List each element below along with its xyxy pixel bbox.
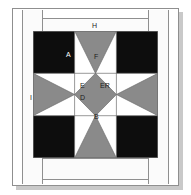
border-band-bottom	[43, 158, 148, 180]
border-label-i: I	[30, 94, 32, 101]
quilt-block: A F E ER D B	[33, 31, 158, 158]
patch-corner-bottom-left	[33, 116, 75, 158]
border-label-h: H	[92, 22, 97, 29]
quilt-block-svg	[33, 31, 158, 158]
patch-corner-top-right	[116, 31, 158, 73]
patch-corner-bottom-right	[116, 116, 158, 158]
patch-corner-top-left	[33, 31, 75, 73]
diagram-sheet: H I	[12, 8, 179, 186]
diagram-page: H I	[0, 0, 191, 195]
